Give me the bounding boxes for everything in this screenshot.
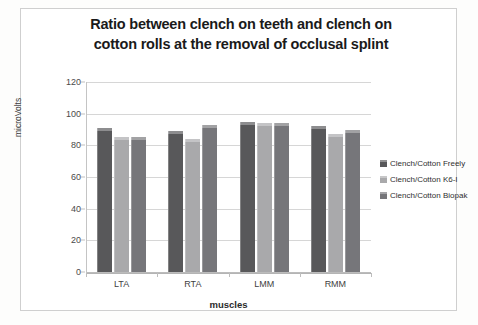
bar-edge	[168, 131, 169, 272]
bar	[240, 122, 255, 272]
bar	[345, 130, 360, 273]
chart-title-line-1: Ratio between clench on teeth and clench…	[51, 15, 431, 35]
legend-swatch-icon	[380, 176, 387, 183]
bar	[311, 126, 326, 272]
legend-swatch-icon	[380, 192, 387, 199]
bar	[131, 137, 146, 272]
bar-highlight	[131, 137, 146, 140]
y-tick-mark-20	[81, 240, 85, 241]
x-tick-mark-4	[371, 273, 372, 277]
bar	[328, 134, 343, 272]
bar	[274, 123, 289, 272]
bar-highlight	[202, 125, 217, 128]
y-tick-label-60: 60	[45, 172, 81, 182]
chart-frame: Ratio between clench on teeth and clench…	[20, 8, 457, 311]
bar-edge	[311, 126, 312, 272]
bar-edge	[114, 137, 115, 272]
bar-highlight	[97, 128, 112, 131]
bar-group	[240, 82, 289, 272]
x-axis-title: muscles	[86, 299, 371, 310]
bar	[185, 139, 200, 272]
bar-edge	[257, 123, 258, 272]
bar	[168, 131, 183, 272]
legend-label: Clench/Cotton Freely	[390, 159, 465, 168]
chart-title: Ratio between clench on teeth and clench…	[51, 15, 431, 54]
legend-item[interactable]: Clench/Cotton K6-I	[380, 175, 467, 184]
bar-edge	[202, 125, 203, 272]
bar-edge	[185, 139, 186, 272]
legend-item[interactable]: Clench/Cotton Freely	[380, 159, 467, 168]
bar-highlight	[168, 131, 183, 134]
y-tick-mark-60	[81, 177, 85, 178]
bar-edge	[97, 128, 98, 272]
bar-highlight	[185, 139, 200, 142]
y-tick-label-80: 80	[45, 140, 81, 150]
bar-group	[97, 82, 146, 272]
bar-highlight	[328, 134, 343, 137]
bar	[114, 137, 129, 272]
x-tick-mark-3	[300, 273, 301, 277]
bar-highlight	[274, 123, 289, 126]
y-tick-mark-100	[81, 113, 85, 114]
bar	[202, 125, 217, 272]
y-axis-label: microVolts	[13, 98, 23, 137]
x-tick-label-rmm: RMM	[307, 279, 363, 295]
x-tick-mark-2	[229, 273, 230, 277]
bar-highlight	[257, 123, 272, 126]
chart-legend: Clench/Cotton FreelyClench/Cotton K6-ICl…	[380, 159, 467, 200]
legend-item[interactable]: Clench/Cotton Biopak	[380, 191, 467, 200]
bar-groups	[86, 82, 371, 272]
y-tick-mark-40	[81, 208, 85, 209]
x-tick-label-lta: LTA	[94, 279, 150, 295]
bar-highlight	[114, 137, 129, 140]
y-axis-tick-labels: 020406080100120	[41, 82, 81, 272]
legend-label: Clench/Cotton Biopak	[390, 191, 467, 200]
bar-edge	[345, 130, 346, 273]
x-tick-mark-0	[86, 273, 87, 277]
bar-edge	[131, 137, 132, 272]
chart-title-line-2: cotton rolls at the removal of occlusal …	[51, 35, 431, 55]
y-tick-label-20: 20	[45, 235, 81, 245]
y-tick-mark-0	[81, 272, 85, 273]
y-tick-mark-80	[81, 145, 85, 146]
bar	[97, 128, 112, 272]
y-tick-label-0: 0	[45, 267, 81, 277]
y-tick-label-100: 100	[45, 109, 81, 119]
y-tick-label-40: 40	[45, 204, 81, 214]
bar	[257, 123, 272, 272]
bar-edge	[274, 123, 275, 272]
bar-edge	[328, 134, 329, 272]
x-tick-label-rta: RTA	[165, 279, 221, 295]
bar-highlight	[240, 122, 255, 125]
bar-group	[311, 82, 360, 272]
bar-edge	[240, 122, 241, 272]
bar-highlight	[311, 126, 326, 129]
legend-label: Clench/Cotton K6-I	[390, 175, 458, 184]
legend-swatch-icon	[380, 160, 387, 167]
y-tick-mark-120	[81, 82, 85, 83]
bar-group	[168, 82, 217, 272]
x-tick-label-lmm: LMM	[236, 279, 292, 295]
x-axis-tick-labels: LTARTALMMRMM	[86, 279, 371, 295]
bar-highlight	[345, 130, 360, 133]
x-tick-mark-1	[157, 273, 158, 277]
y-tick-label-120: 120	[45, 77, 81, 87]
